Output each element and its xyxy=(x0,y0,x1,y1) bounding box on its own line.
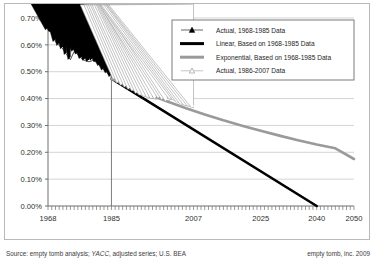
x-tick-marks xyxy=(48,206,354,210)
x-axis-label: 1985 xyxy=(103,214,120,223)
y-axis-label: 0.50% xyxy=(20,67,42,76)
series-path xyxy=(111,79,316,206)
y-axis-label: 0.30% xyxy=(20,121,42,130)
y-axis-label: 0.10% xyxy=(20,175,42,184)
x-axis-labels: 196819852007202520402050 xyxy=(40,214,363,223)
y-axis-label: 0.20% xyxy=(20,148,42,157)
chart-frame: 0.00%0.10%0.20%0.30%0.40%0.50%0.60%0.70%… xyxy=(4,3,370,240)
source-prefix: Source: empty tomb analysis; xyxy=(6,250,92,257)
y-axis-labels: 0.00%0.10%0.20%0.30%0.40%0.50%0.60%0.70% xyxy=(20,14,42,211)
x-axis-label: 2007 xyxy=(185,214,202,223)
legend-item-label: Actual, 1986-2007 Data xyxy=(216,67,286,74)
credit-note: empty tomb, inc. 2009 xyxy=(307,250,370,257)
x-axis-label: 2025 xyxy=(252,214,269,223)
legend: Actual, 1968-1985 DataLinear, Based on 1… xyxy=(172,20,354,80)
chart-page: 0.00%0.10%0.20%0.30%0.40%0.50%0.60%0.70%… xyxy=(0,0,377,269)
y-axis-label: 0.60% xyxy=(20,41,42,50)
source-suffix: , adjusted series; U.S. BEA xyxy=(109,250,186,257)
legend-item-label: Exponential, Based on 1968-1985 Data xyxy=(216,54,331,62)
source-note: Source: empty tomb analysis; YACC, adjus… xyxy=(6,250,186,257)
series-line xyxy=(111,79,316,206)
x-axis-label: 2050 xyxy=(346,214,363,223)
source-italic: YACC xyxy=(92,250,109,257)
y-axis-label: 0.00% xyxy=(20,202,42,211)
x-axis-label: 1968 xyxy=(40,214,57,223)
x-axis-label: 2040 xyxy=(308,214,325,223)
footer: Source: empty tomb analysis; YACC, adjus… xyxy=(0,246,377,268)
y-axis-label: 0.40% xyxy=(20,94,42,103)
legend-item-label: Linear, Based on 1968-1985 Data xyxy=(216,40,315,47)
legend-item-label: Actual, 1968-1985 Data xyxy=(216,27,286,34)
chart-canvas: 0.00%0.10%0.20%0.30%0.40%0.50%0.60%0.70%… xyxy=(5,4,369,239)
